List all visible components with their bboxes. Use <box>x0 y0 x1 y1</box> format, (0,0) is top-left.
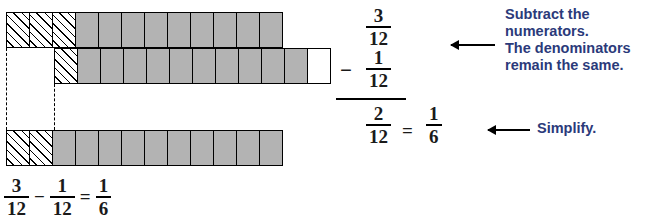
bar-part-shaded <box>123 48 147 84</box>
fraction-subtraction-diagram: 3 12 − 1 12 2 12 = 1 6 Subtract the nume… <box>0 0 672 222</box>
bar-part-hatched <box>6 12 30 48</box>
summary-subtrahend-denominator: 12 <box>50 199 75 218</box>
bar-part-shaded <box>77 48 101 84</box>
bar-part-shaded <box>190 12 214 48</box>
simplify-arrow <box>488 129 530 131</box>
bar-part-shaded <box>169 48 193 84</box>
bar-part-shaded <box>121 130 145 166</box>
simplified-fraction: 1 6 <box>426 104 442 147</box>
minuend-bar <box>6 12 283 48</box>
bar-part-shaded <box>259 12 283 48</box>
summary-subtrahend-numerator: 1 <box>55 176 71 195</box>
subtrahend-numerator: 1 <box>371 48 387 67</box>
minuend-fraction: 3 12 <box>366 6 391 49</box>
callout-line-2: numerators. <box>505 23 670 40</box>
bar-part-shaded <box>238 48 262 84</box>
bar-part-hatched <box>52 12 76 48</box>
bar-part-shaded <box>52 130 76 166</box>
callout-line-3: The denominators <box>505 40 670 57</box>
summary-result-denominator: 6 <box>96 199 112 218</box>
bar-part-shaded <box>100 48 124 84</box>
summary-result-fraction: 1 6 <box>96 176 112 219</box>
minus-operator: − <box>340 58 352 83</box>
summary-subtrahend-fraction: 1 12 <box>50 176 75 219</box>
subtract-numerators-callout: Subtract the numerators. The denominator… <box>505 6 670 74</box>
bar-part-shaded <box>167 130 191 166</box>
bar-part-shaded <box>213 130 237 166</box>
summary-minuend-numerator: 3 <box>9 176 25 195</box>
summary-minuend-denominator: 12 <box>4 199 29 218</box>
subtrahend-denominator: 12 <box>366 71 391 90</box>
summary-minus-operator: − <box>34 186 45 208</box>
minuend-numerator: 3 <box>371 6 387 25</box>
bar-part-shaded <box>259 130 283 166</box>
bar-part-shaded <box>190 130 214 166</box>
result-expression: 2 12 = 1 6 <box>330 104 480 156</box>
guide-line-right <box>54 84 55 130</box>
result-denominator: 12 <box>366 127 391 146</box>
bar-part-shaded <box>192 48 216 84</box>
bar-part-shaded <box>75 130 99 166</box>
bar-part-hatched <box>6 130 30 166</box>
minuend-denominator: 12 <box>366 29 391 48</box>
summary-equation: 3 12 − 1 12 = 1 6 <box>4 176 111 219</box>
summary-result-numerator: 1 <box>96 176 112 195</box>
bar-part-shaded <box>144 12 168 48</box>
bar-part-shaded <box>167 12 191 48</box>
difference-bar <box>6 130 283 166</box>
bar-part-shaded <box>236 130 260 166</box>
bar-part-shaded <box>146 48 170 84</box>
subtract-numerators-arrow <box>451 44 495 46</box>
subtrahend-bar <box>54 48 331 84</box>
result-fraction: 2 12 <box>366 104 391 147</box>
subtraction-rule <box>336 98 406 100</box>
bar-part-shaded <box>236 12 260 48</box>
bar-part-shaded <box>215 48 239 84</box>
callout-line-1: Subtract the <box>505 6 670 23</box>
summary-equals-sign: = <box>80 186 91 208</box>
bar-part-shaded <box>213 12 237 48</box>
guide-line-left <box>6 48 7 130</box>
bar-part-shaded <box>98 12 122 48</box>
bar-part-empty <box>307 48 331 84</box>
bar-part-shaded <box>144 130 168 166</box>
callout-line-4: remain the same. <box>505 57 670 74</box>
equals-sign: = <box>402 120 413 142</box>
simplify-callout: Simplify. <box>537 120 596 136</box>
bar-part-shaded <box>284 48 308 84</box>
bar-part-hatched <box>54 48 78 84</box>
simplified-denominator: 6 <box>426 127 442 146</box>
summary-minuend-fraction: 3 12 <box>4 176 29 219</box>
bar-part-hatched <box>29 12 53 48</box>
result-numerator: 2 <box>371 104 387 123</box>
subtrahend-fraction: 1 12 <box>366 48 391 91</box>
bar-part-shaded <box>75 12 99 48</box>
simplified-numerator: 1 <box>426 104 442 123</box>
bar-part-hatched <box>29 130 53 166</box>
vertical-subtraction-expression: 3 12 − 1 12 <box>330 6 440 116</box>
bar-part-shaded <box>98 130 122 166</box>
bar-part-shaded <box>261 48 285 84</box>
bar-part-shaded <box>121 12 145 48</box>
